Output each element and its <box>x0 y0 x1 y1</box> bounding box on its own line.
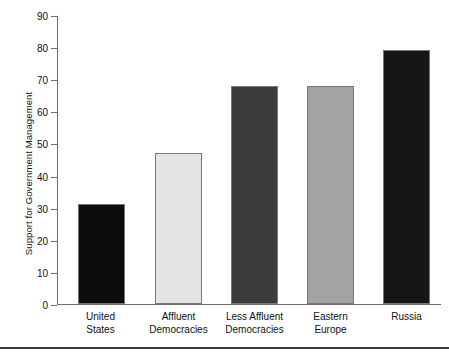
x-tick-label-russia: Russia <box>357 310 449 323</box>
y-tick-label: 40 <box>37 171 48 182</box>
y-tick-label: 0 <box>42 300 48 311</box>
y-tick-mark <box>51 305 57 306</box>
y-tick-label: 60 <box>37 107 48 118</box>
y-tick-label: 70 <box>37 75 48 86</box>
x-axis-tick-labels: United States Affluent Democracies Less … <box>57 310 441 344</box>
y-tick-mark <box>51 209 57 210</box>
y-tick-label: 90 <box>37 11 48 22</box>
x-tick-label-line2: Europe <box>281 323 380 336</box>
y-tick-mark <box>51 273 57 274</box>
bar-affluent-democracies <box>155 153 202 304</box>
y-tick-mark <box>51 112 57 113</box>
y-axis-line <box>57 16 58 305</box>
y-tick-mark <box>51 80 57 81</box>
y-tick-mark <box>51 177 57 178</box>
bar-russia <box>383 50 430 304</box>
y-tick-mark <box>51 241 57 242</box>
y-tick-label: 50 <box>37 139 48 150</box>
y-tick-mark <box>51 16 57 17</box>
bar-chart-figure: Support for Government Management 0 10 2… <box>0 0 449 357</box>
bar-eastern-europe <box>307 86 354 304</box>
y-tick-label: 30 <box>37 203 48 214</box>
x-tick-label-line1: Russia <box>357 310 449 323</box>
y-tick-label: 20 <box>37 235 48 246</box>
y-tick-label: 80 <box>37 43 48 54</box>
y-tick-label: 10 <box>37 267 48 278</box>
y-tick-mark <box>51 144 57 145</box>
y-tick-mark <box>51 48 57 49</box>
plot-area: 0 10 20 30 40 50 60 70 <box>57 16 441 305</box>
y-axis-title: Support for Government Management <box>23 44 34 304</box>
bar-united-states <box>78 204 125 304</box>
bar-less-affluent-democracies <box>231 86 278 304</box>
page-divider-rule <box>0 347 449 349</box>
x-axis-line <box>57 304 441 305</box>
